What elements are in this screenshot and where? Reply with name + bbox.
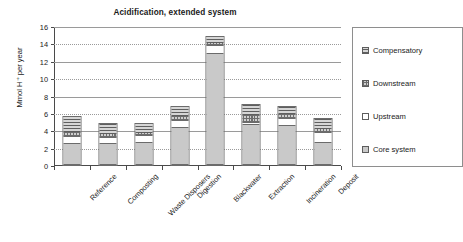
stacked-bar[interactable] xyxy=(134,123,153,166)
legend-item-core-system[interactable]: Core system xyxy=(362,145,416,154)
bar-slot xyxy=(126,27,162,166)
y-tick-label: 14 xyxy=(4,40,48,49)
legend-label: Upstream xyxy=(373,112,406,121)
bar-segment-upstream[interactable] xyxy=(171,121,188,128)
bar-segment-compensatory[interactable] xyxy=(99,124,116,135)
chart-title: Acidification, extended system xyxy=(0,8,350,17)
chart-legend: CompensatoryDownstreamUpstreamCore syste… xyxy=(352,27,463,167)
legend-label: Compensatory xyxy=(373,46,422,55)
bar-segment-core-system[interactable] xyxy=(171,128,188,165)
bar-segment-upstream[interactable] xyxy=(135,136,152,143)
bar-slot xyxy=(162,27,198,166)
bar-segment-core-system[interactable] xyxy=(135,143,152,165)
stacked-bar[interactable] xyxy=(170,106,189,166)
legend-swatch-icon xyxy=(362,146,369,153)
legend-swatch-icon xyxy=(362,80,369,87)
stacked-bar[interactable] xyxy=(206,36,225,166)
bar-slot xyxy=(269,27,305,166)
x-tick-mark xyxy=(162,166,163,170)
bar-segment-compensatory[interactable] xyxy=(63,117,80,132)
bar-segment-compensatory[interactable] xyxy=(315,119,332,129)
x-tick-label: Blackwater xyxy=(232,172,264,204)
bar-slot xyxy=(54,27,90,166)
legend-swatch-icon xyxy=(362,113,369,120)
x-tick-mark xyxy=(90,166,91,170)
x-tick-mark xyxy=(126,166,127,170)
x-tick-label: Extraction xyxy=(267,172,297,202)
x-tick-label: Incineration xyxy=(304,172,337,205)
stacked-bar[interactable] xyxy=(98,123,117,166)
y-tick-label: 2 xyxy=(4,144,48,153)
bar-segment-core-system[interactable] xyxy=(279,126,296,165)
legend-item-upstream[interactable]: Upstream xyxy=(362,112,406,121)
y-tick-mark xyxy=(51,149,54,150)
y-tick-mark xyxy=(51,114,54,115)
bar-group xyxy=(54,27,341,166)
y-tick-label: 6 xyxy=(4,109,48,118)
x-tick-mark xyxy=(54,166,55,170)
y-tick-mark xyxy=(51,62,54,63)
x-tick-label: Reference xyxy=(88,172,118,202)
y-tick-label: 0 xyxy=(4,162,48,171)
bar-segment-upstream[interactable] xyxy=(315,133,332,142)
x-tick-mark xyxy=(233,166,234,170)
chart-canvas: Acidification, extended system Mmol H⁺ p… xyxy=(0,0,463,242)
bar-segment-core-system[interactable] xyxy=(315,143,332,165)
x-tick-label: Deposit xyxy=(336,172,360,196)
bar-segment-compensatory[interactable] xyxy=(243,105,260,115)
plot-area: 0246810121416 ReferenceCompostingWaste D… xyxy=(54,27,341,166)
y-tick-label: 16 xyxy=(4,23,48,32)
y-tick-label: 12 xyxy=(4,57,48,66)
bar-slot xyxy=(305,27,341,166)
stacked-bar[interactable] xyxy=(278,106,297,166)
legend-item-downstream[interactable]: Downstream xyxy=(362,79,416,88)
bar-segment-core-system[interactable] xyxy=(207,54,224,165)
stacked-bar[interactable] xyxy=(242,104,261,166)
y-tick-label: 8 xyxy=(4,92,48,101)
stacked-bar[interactable] xyxy=(62,116,81,166)
bar-segment-upstream[interactable] xyxy=(99,138,116,145)
bar-segment-compensatory[interactable] xyxy=(279,107,296,114)
bar-segment-core-system[interactable] xyxy=(63,144,80,165)
y-tick-mark xyxy=(51,97,54,98)
bar-segment-compensatory[interactable] xyxy=(135,124,152,133)
x-tick-mark xyxy=(305,166,306,170)
bar-slot xyxy=(198,27,234,166)
legend-label: Core system xyxy=(373,145,416,154)
legend-swatch-icon xyxy=(362,47,369,54)
bar-slot xyxy=(90,27,126,166)
x-tick-label: Composting xyxy=(125,172,159,206)
bar-segment-compensatory[interactable] xyxy=(171,107,188,116)
y-tick-mark xyxy=(51,131,54,132)
y-tick-mark xyxy=(51,79,54,80)
y-tick-mark xyxy=(51,27,54,28)
x-tick-mark xyxy=(269,166,270,170)
bar-segment-upstream[interactable] xyxy=(279,119,296,127)
x-tick-mark xyxy=(198,166,199,170)
y-tick-label: 10 xyxy=(4,75,48,84)
bar-slot xyxy=(233,27,269,166)
y-tick-mark xyxy=(51,44,54,45)
stacked-bar[interactable] xyxy=(314,118,333,166)
legend-item-compensatory[interactable]: Compensatory xyxy=(362,46,422,55)
bar-segment-core-system[interactable] xyxy=(99,144,116,165)
bar-segment-downstream[interactable] xyxy=(243,115,260,123)
bar-segment-upstream[interactable] xyxy=(63,137,80,144)
y-tick-label: 4 xyxy=(4,127,48,136)
x-tick-mark xyxy=(341,166,342,170)
legend-label: Downstream xyxy=(373,79,416,88)
bar-segment-upstream[interactable] xyxy=(207,46,224,54)
bar-segment-core-system[interactable] xyxy=(243,125,260,165)
